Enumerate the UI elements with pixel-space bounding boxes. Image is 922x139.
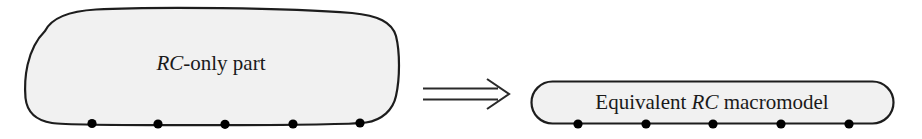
source-terminal-2[interactable] [153,119,162,128]
target-block-label-start: Equivalent [595,90,686,114]
diagram-canvas: RC-only part Equivalent RC macromodel [0,0,922,139]
target-terminal-2[interactable] [641,119,650,128]
source-terminal-4[interactable] [288,119,297,128]
figure-container: RC-only part Equivalent RC macromodel [0,0,922,139]
source-terminal-1[interactable] [87,119,96,128]
source-block-label-prefix: RC [155,51,184,75]
target-block-label-end: macromodel [724,90,829,114]
target-terminal-5[interactable] [844,119,853,128]
target-block-label: Equivalent RC macromodel [595,90,828,114]
source-block-label-suffix: -only part [183,51,265,75]
target-terminal-3[interactable] [708,119,717,128]
target-block-group[interactable]: Equivalent RC macromodel [532,82,894,129]
source-terminal-5[interactable] [355,118,364,127]
target-terminal-1[interactable] [573,119,582,128]
source-block-label: RC-only part [155,51,265,75]
transformation-arrow [423,79,509,109]
target-block-label-emphasis: RC [691,90,720,114]
target-terminal-4[interactable] [776,119,785,128]
source-terminal-3[interactable] [220,120,229,129]
source-block-group[interactable]: RC-only part [25,8,399,129]
double-line-right-arrow-icon [423,79,509,109]
